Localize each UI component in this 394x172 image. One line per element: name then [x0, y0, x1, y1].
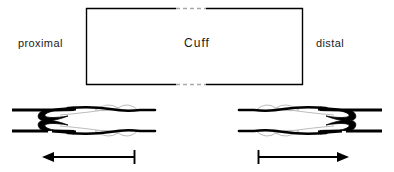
distal-lower-wall-proximal: [239, 130, 326, 134]
proximal-lower-wall-distal: [68, 130, 155, 134]
distal-vessel-diagram: [239, 105, 382, 136]
proximal-upper-wall-distal: [68, 107, 155, 111]
distal-flow-arrow-head: [337, 152, 349, 162]
proximal-flow-arrow: [42, 150, 135, 164]
distal-label: distal: [316, 37, 344, 49]
figure-canvas: [0, 0, 394, 172]
proximal-vessel-diagram: [12, 105, 155, 136]
distal-flow-arrow: [259, 150, 350, 164]
distal-upper-wall-proximal: [239, 107, 326, 111]
cuff-valve-figure: proximal Cuff distal: [0, 0, 394, 172]
proximal-flow-arrow-head: [42, 152, 54, 162]
